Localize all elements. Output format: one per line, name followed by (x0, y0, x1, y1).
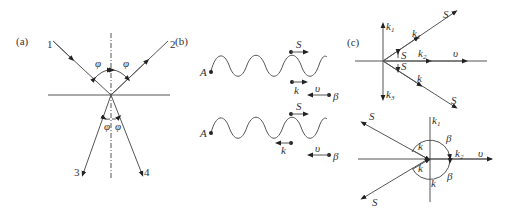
diagram-canvas: (a) 1 2 3 4 φ φ φ φ (b) A S (0, 0, 510, 217)
beta-label-1: β (445, 132, 452, 144)
phi-label-3: φ (104, 120, 110, 132)
panel-b: (b) A S k υ β A S k υ β (175, 35, 339, 162)
s-lower-label: S (451, 94, 457, 106)
k3-label: k3 (386, 88, 395, 102)
ray-3 (83, 95, 111, 174)
phi-label-1: φ (95, 57, 101, 69)
k-label-b: k (418, 162, 424, 174)
s-label-bottom: S (296, 100, 302, 112)
ray-4 (111, 95, 142, 174)
k-upper-label: k1 (412, 27, 420, 41)
beta-label-2: β (446, 170, 453, 182)
s-label-top: S (296, 38, 302, 50)
point-a-bottom-label: A (199, 127, 207, 139)
beta-label-top: β (332, 90, 339, 102)
k-lower-label: k (417, 72, 423, 84)
point-a-top-label: A (199, 66, 207, 78)
v-label-top: υ (453, 47, 458, 59)
phi-label-2: φ (123, 57, 129, 69)
k-label-bottom: k (281, 144, 287, 156)
k-upper-arrow (383, 38, 417, 61)
v-label-bottom: υ (315, 142, 320, 154)
panel-a: (a) 1 2 3 4 φ φ φ φ (16, 33, 176, 178)
s-small-label-2: S (401, 60, 407, 72)
panel-b-label: (b) (175, 35, 188, 48)
k1-label-bottom: k1 (432, 114, 440, 128)
phi-label-4: φ (115, 120, 121, 132)
v-label-bottom: υ (478, 147, 483, 159)
ray-1-label: 1 (47, 38, 53, 50)
panel-c-label: (c) (347, 36, 360, 49)
point-a-bottom (209, 131, 213, 135)
beta-label-bottom: β (332, 150, 339, 162)
s-upper-label-bottom: S (369, 110, 375, 122)
angle-arc-lower-right (112, 117, 119, 119)
ray-4-label: 4 (144, 166, 150, 178)
k-label-top: k (294, 84, 300, 96)
wave-top (211, 55, 327, 76)
wave-bottom (211, 117, 327, 138)
ray-1-arrow (53, 41, 72, 59)
k1-label: k1 (386, 20, 394, 34)
panel-c-bottom: k1 k2 k k k β β υ S S (358, 110, 492, 208)
angle-arc-right (112, 70, 128, 79)
ray-3-label: 3 (74, 166, 80, 178)
angle-arc-left (94, 70, 110, 79)
k2-label: k2 (418, 47, 427, 61)
v-label-top: υ (315, 82, 320, 94)
k2-label-bottom: k2 (455, 147, 464, 161)
s-upper-label: S (443, 8, 449, 20)
panel-a-label: (a) (16, 35, 29, 48)
physics-diagram: (a) 1 2 3 4 φ φ φ φ (b) A S (0, 0, 510, 217)
s-lower-label-bottom: S (372, 196, 378, 208)
point-a-top (209, 70, 213, 74)
panel-c-top: (c) S S k1 k3 k1 k2 k υ S S (347, 8, 487, 107)
